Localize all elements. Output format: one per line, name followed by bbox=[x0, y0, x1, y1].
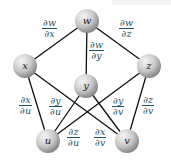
fraction-denominator: ∂y bbox=[89, 50, 104, 61]
fraction-denominator: ∂u bbox=[67, 137, 80, 148]
fraction-numerator: ∂w bbox=[119, 18, 134, 28]
fraction-numerator: ∂x bbox=[19, 95, 32, 105]
node-u: u bbox=[36, 129, 60, 153]
fraction-denominator: ∂x bbox=[42, 28, 57, 39]
fraction-numerator: ∂y bbox=[112, 96, 124, 106]
fraction-numerator: ∂w bbox=[89, 40, 104, 50]
node-label: y bbox=[82, 80, 89, 91]
nodes-group: wxyzuv bbox=[13, 9, 161, 153]
node-w: w bbox=[75, 9, 99, 33]
partial-derivative-label-dz-du: ∂z∂u bbox=[67, 127, 80, 148]
node-label: z bbox=[145, 60, 152, 71]
fraction-denominator: ∂v bbox=[142, 105, 154, 116]
partial-derivative-label-dy-du: ∂y∂u bbox=[49, 96, 62, 117]
partial-derivative-label-dw-dz: ∂w∂z bbox=[119, 18, 134, 39]
fraction-denominator: ∂u bbox=[49, 106, 62, 117]
partial-derivative-label-dw-dy: ∂w∂y bbox=[89, 40, 104, 61]
partial-derivative-label-dz-dv: ∂z∂v bbox=[142, 95, 154, 116]
node-label: x bbox=[22, 60, 28, 71]
chain-rule-tree-diagram: wxyzuv bbox=[0, 0, 171, 164]
fraction-numerator: ∂z bbox=[142, 95, 154, 105]
fraction-numerator: ∂w bbox=[42, 18, 57, 28]
fraction-denominator: ∂u bbox=[19, 105, 32, 116]
node-y: y bbox=[74, 74, 98, 98]
node-x: x bbox=[13, 54, 37, 78]
fraction-numerator: ∂z bbox=[67, 127, 80, 137]
partial-derivative-label-dy-dv: ∂y∂v bbox=[112, 96, 124, 117]
partial-derivative-label-dw-dx: ∂w∂x bbox=[42, 18, 57, 39]
fraction-denominator: ∂v bbox=[94, 137, 106, 148]
node-label: v bbox=[124, 135, 130, 146]
fraction-denominator: ∂v bbox=[112, 106, 124, 117]
node-label: u bbox=[45, 135, 51, 146]
partial-derivative-label-dx-du: ∂x∂u bbox=[19, 95, 32, 116]
fraction-numerator: ∂x bbox=[94, 127, 106, 137]
node-label: w bbox=[83, 15, 92, 26]
node-z: z bbox=[137, 54, 161, 78]
fraction-denominator: ∂z bbox=[119, 28, 134, 39]
partial-derivative-label-dx-dv: ∂x∂v bbox=[94, 127, 106, 148]
node-v: v bbox=[115, 129, 139, 153]
fraction-numerator: ∂y bbox=[49, 96, 62, 106]
